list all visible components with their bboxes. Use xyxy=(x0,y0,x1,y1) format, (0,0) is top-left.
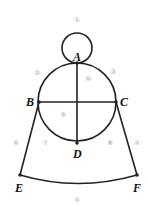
num-8: ⑧ xyxy=(107,139,113,147)
num-9: ⑨ xyxy=(60,111,66,119)
label-D: D xyxy=(72,147,82,161)
arc-EF xyxy=(20,175,137,184)
num-10: ⑩ xyxy=(85,75,91,83)
label-A: A xyxy=(72,50,81,64)
segment-BE xyxy=(20,102,39,175)
num-7: ⑦ xyxy=(42,139,48,147)
num-5: ⑤ xyxy=(74,196,80,204)
num-1: ① xyxy=(74,16,80,24)
label-B: B xyxy=(25,95,34,109)
num-2: ② xyxy=(34,69,40,77)
label-C: C xyxy=(120,95,129,109)
label-E: E xyxy=(14,181,23,195)
num-3: ③ xyxy=(110,68,116,76)
label-F: F xyxy=(132,181,141,195)
diagram: A B C D E F ① ② ③ ④ ⑤ ⑥ ⑦ ⑧ ⑨ ⑩ xyxy=(0,0,148,207)
num-4: ④ xyxy=(134,139,140,147)
num-6: ⑥ xyxy=(13,139,19,147)
